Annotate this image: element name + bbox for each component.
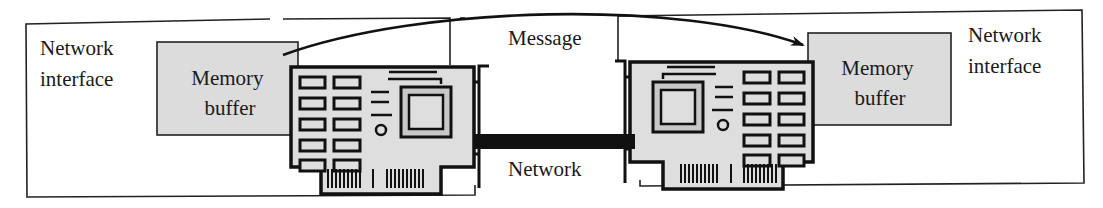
network-interface-diagram: Network interface Memory buffer Network … [0, 0, 1103, 208]
left-network-interface: Network interface Memory buffer [26, 18, 489, 197]
left-nic-card [291, 66, 489, 194]
right-nic-card [615, 61, 813, 189]
left-buffer-label-line1: Memory [191, 66, 264, 90]
message-label: Message [508, 26, 581, 50]
right-buffer-label-line2: buffer [855, 86, 906, 110]
left-buffer-label-line2: buffer [205, 96, 256, 120]
right-buffer-label-line1: Memory [841, 56, 914, 80]
right-interface-label-line2: interface [968, 54, 1041, 78]
right-interface-label: Network interface [968, 23, 1047, 78]
left-interface-label-line2: interface [40, 67, 113, 91]
right-network-interface: Network interface Memory buffer [615, 10, 1084, 189]
left-memory-buffer: Memory buffer [157, 42, 298, 135]
network-label: Network [508, 157, 582, 181]
network-cable [475, 134, 635, 149]
left-interface-label: Network interface [40, 36, 119, 91]
right-interface-label-line1: Network [968, 23, 1042, 47]
left-interface-label-line1: Network [40, 36, 114, 60]
right-memory-buffer: Memory buffer [808, 33, 951, 125]
